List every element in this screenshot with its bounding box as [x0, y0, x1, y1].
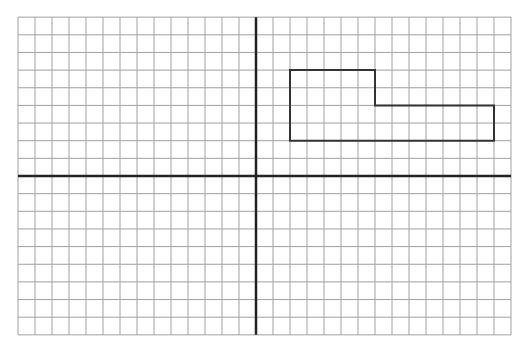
coordinate-grid	[0, 0, 527, 358]
axes	[18, 17, 511, 335]
